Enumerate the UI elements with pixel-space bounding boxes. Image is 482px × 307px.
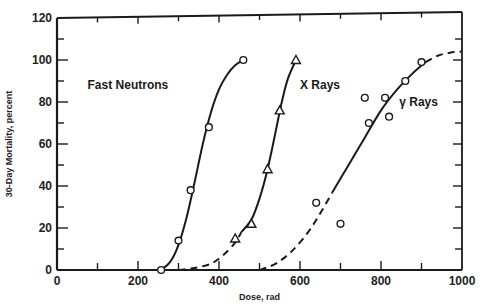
y-tick-label: 40 [39,179,53,193]
series-label: γ Rays [399,95,438,109]
data-point-circle [205,124,212,131]
x-tick-label: 200 [128,274,148,288]
x-tick-label: 400 [209,274,229,288]
y-axis-title: 30-Day Mortality, percent [4,91,14,197]
fit-curve [332,62,425,192]
chart: 02004006008001000 020406080100120 Dose, … [0,0,482,307]
fit-curve [161,60,243,270]
axes [57,12,462,270]
data-point-circle [365,120,372,127]
dashed-curve [179,232,242,270]
data-point-circle [187,187,194,194]
data-point-circle [361,94,368,101]
y-tick-label: 20 [39,221,53,235]
fit-curve [241,60,296,232]
series-label: X Rays [300,78,340,92]
x-tick-label: 0 [54,274,61,288]
dashed-curve [260,192,333,270]
x-axis-title: Dose, rad [239,292,280,302]
y-tick-label: 60 [39,137,53,151]
data-point-circle [402,78,409,85]
data-point-triangle [263,165,272,173]
series-x-rays [179,56,301,271]
series-label: Fast Neutrons [88,78,169,92]
y-tick-label: 0 [45,263,52,277]
data-point-circle [313,199,320,206]
data-point-circle [158,267,165,274]
data-point-triangle [291,56,300,64]
x-tick-label: 600 [290,274,310,288]
data-point-circle [175,237,182,244]
data-point-circle [240,57,247,64]
y-tick-label: 80 [39,95,53,109]
data-point-circle [337,220,344,227]
x-tick-label: 800 [371,274,391,288]
data-point-circle [386,113,393,120]
data-point-circle [418,59,425,66]
data-point-triangle [275,106,284,114]
series-rays [260,52,463,270]
x-tick-label: 1000 [449,274,476,288]
y-axis-ticks: 020406080100120 [32,11,462,277]
data-point-triangle [231,234,240,242]
y-tick-label: 100 [32,53,52,67]
y-tick-label: 120 [32,11,52,25]
x-axis-ticks: 02004006008001000 [54,13,476,288]
data-point-circle [382,94,389,101]
